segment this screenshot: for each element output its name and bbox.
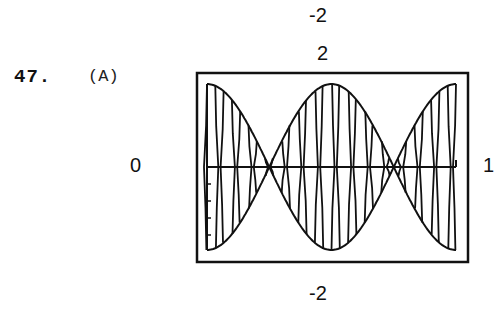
plot-area bbox=[204, 84, 456, 250]
graph-plot bbox=[0, 0, 499, 310]
